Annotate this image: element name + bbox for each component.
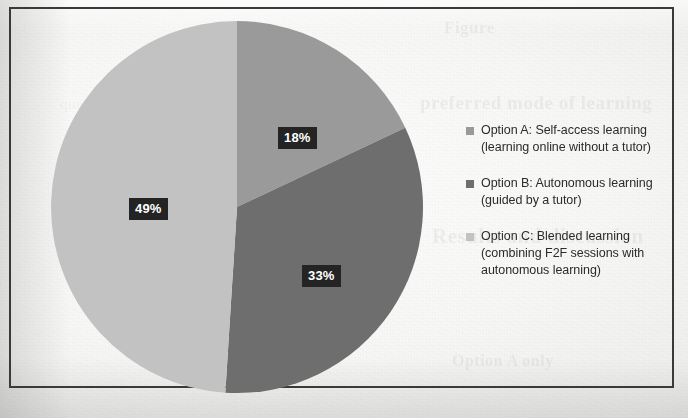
legend-swatch-icon [466, 180, 474, 188]
legend-item-label: Option B: Autonomous learning [481, 175, 684, 192]
legend-item-label: Option A: Self-access learning [481, 122, 684, 139]
chart-legend: Option A: Self-access learning (learning… [466, 122, 684, 279]
legend-item-label-line2: (learning online without a tutor) [481, 139, 684, 156]
pie-data-label: 33% [302, 265, 341, 287]
legend-item-label-line2: (combining F2F sessions with [481, 245, 684, 262]
pie-data-label: 49% [129, 198, 168, 220]
legend-item-option-b: Option B: Autonomous learning (guided by… [466, 175, 684, 209]
legend-swatch-icon [466, 233, 474, 241]
pie-chart [49, 19, 425, 395]
legend-swatch-icon [466, 127, 474, 135]
legend-item-label: Option C: Blended learning [481, 228, 684, 245]
scanned-page: Figure preferred mode of learning Result… [0, 0, 688, 418]
pie-chart-svg [49, 19, 425, 395]
chart-border-frame: 18% 33% 49% Option A: Self-access learni… [9, 7, 674, 388]
legend-item-option-c: Option C: Blended learning (combining F2… [466, 228, 684, 279]
pie-data-label: 18% [278, 127, 317, 149]
legend-item-label-line2: (guided by a tutor) [481, 192, 684, 209]
legend-item-option-a: Option A: Self-access learning (learning… [466, 122, 684, 156]
legend-item-label-line3: autonomous learning) [481, 262, 684, 279]
